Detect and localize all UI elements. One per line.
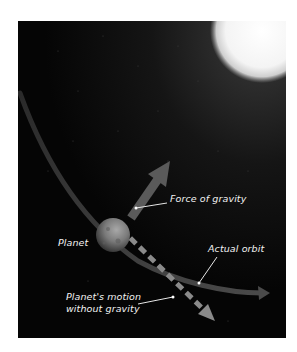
diagram-frame: Force of gravity Planet Actual orbit Pla… <box>18 21 286 338</box>
motion-label-line2: without gravity <box>66 303 140 314</box>
motion-label-line1: Planet's motion <box>66 291 141 302</box>
planet-label: Planet <box>58 237 88 248</box>
planet-body <box>96 218 130 252</box>
force-of-gravity-label: Force of gravity <box>170 193 246 204</box>
diagram-canvas <box>18 21 286 338</box>
actual-orbit-label: Actual orbit <box>208 243 264 254</box>
